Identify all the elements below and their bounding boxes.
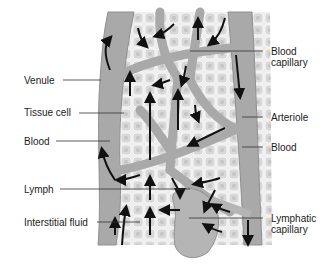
label-lymphatic-capillary-line2: capillary: [271, 224, 316, 235]
label-arteriole: Arteriole: [271, 112, 308, 123]
label-lymphatic-capillary-line1: Lymphatic: [271, 213, 316, 224]
label-blood-capillary-line2: capillary: [271, 57, 308, 68]
label-blood-capillary: Blood capillary: [271, 46, 308, 68]
label-lymphatic-capillary: Lymphatic capillary: [271, 213, 316, 235]
label-blood-left: Blood: [24, 136, 50, 147]
label-lymph: Lymph: [24, 184, 54, 195]
label-blood-right: Blood: [271, 142, 297, 153]
label-venule: Venule: [24, 75, 55, 86]
label-tissue-cell: Tissue cell: [24, 107, 71, 118]
label-interstitial-fluid: Interstitial fluid: [24, 217, 88, 228]
label-blood-capillary-line1: Blood: [271, 46, 308, 57]
